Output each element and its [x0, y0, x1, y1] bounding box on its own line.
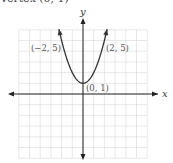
y-axis-label: y — [79, 6, 86, 17]
point-label-left: (−2, 5) — [31, 43, 61, 53]
axes — [8, 18, 158, 160]
vertex-label: (0, 1) — [86, 83, 109, 93]
parabola-graph: y x (−2, 5) (2, 5) (0, 1) — [0, 0, 173, 163]
point-label-right: (2, 5) — [106, 43, 129, 53]
x-axis-label: x — [162, 88, 168, 99]
